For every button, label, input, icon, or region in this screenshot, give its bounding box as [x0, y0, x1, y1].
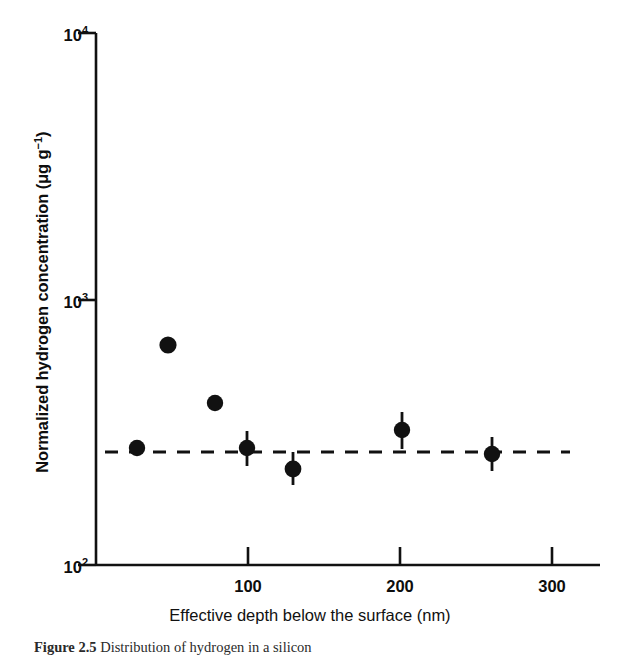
x-axis-title: Effective depth below the surface (nm) [0, 606, 620, 625]
figure-caption-body: Distribution of hydrogen in a silicon [100, 639, 311, 655]
x-tick-label-100: 100 [208, 578, 288, 595]
figure-caption-label: Figure 2.5 [34, 639, 97, 655]
figure-caption: Figure 2.5 Distribution of hydrogen in a… [34, 639, 594, 656]
data-point [239, 431, 255, 466]
data-point [159, 336, 176, 353]
x-tick-label-300: 300 [512, 578, 592, 595]
plot-area [0, 0, 620, 656]
x-tick-label-200: 200 [360, 578, 440, 595]
data-point [129, 440, 145, 456]
data-point [394, 412, 410, 449]
data-point [484, 437, 500, 471]
data-point [285, 452, 302, 485]
data-point [207, 395, 223, 411]
figure-container: Normalized hydrogen concentration (μg g−… [0, 0, 620, 656]
